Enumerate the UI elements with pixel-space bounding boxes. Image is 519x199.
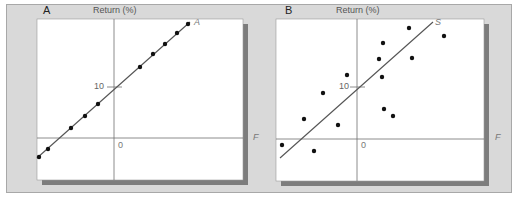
- data-point: [138, 65, 142, 69]
- data-point: [380, 75, 384, 79]
- data-point: [407, 26, 411, 30]
- data-point: [151, 52, 155, 56]
- data-point: [321, 91, 325, 95]
- data-point: [186, 22, 190, 26]
- data-point: [381, 41, 385, 45]
- data-point: [391, 114, 395, 118]
- panel-a-origin: 0: [118, 140, 123, 150]
- panel-b-origin: 0: [361, 140, 366, 150]
- data-point: [83, 114, 87, 118]
- chart-canvas: [0, 0, 519, 199]
- panel-b-plot-area: [276, 19, 484, 181]
- data-point: [302, 117, 306, 121]
- data-point: [442, 34, 446, 38]
- panel-a-ylabel: Return (%): [93, 5, 137, 15]
- panel-a-xlabel: F: [253, 132, 259, 142]
- data-point: [46, 147, 50, 151]
- data-point: [377, 57, 381, 61]
- panel-b-xlabel: F: [495, 132, 501, 142]
- panel-b-tick-10: 10: [339, 81, 349, 91]
- data-point: [37, 155, 41, 159]
- panel-a-label: A: [43, 4, 50, 16]
- data-point: [96, 102, 100, 106]
- data-point: [336, 123, 340, 127]
- panel-a-line-label: A: [194, 17, 200, 27]
- data-point: [280, 143, 284, 147]
- data-point: [345, 73, 349, 77]
- panel-a-plot-area: [37, 19, 243, 180]
- panel-b-line-label: S: [435, 17, 441, 27]
- data-point: [410, 56, 414, 60]
- data-point: [175, 31, 179, 35]
- data-point: [163, 42, 167, 46]
- data-point: [382, 107, 386, 111]
- panel-b-ylabel: Return (%): [336, 5, 380, 15]
- panel-a-tick-10: 10: [94, 81, 104, 91]
- data-point: [69, 126, 73, 130]
- panel-b-label: B: [285, 4, 292, 16]
- data-point: [312, 149, 316, 153]
